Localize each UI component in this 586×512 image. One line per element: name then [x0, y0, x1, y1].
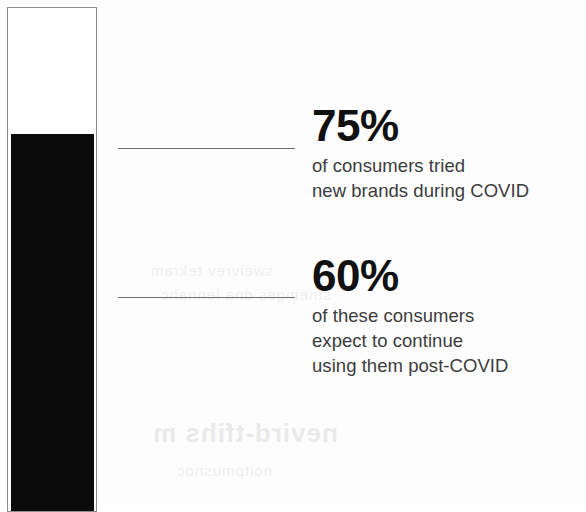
- stat-description-line: using them post-COVID: [312, 353, 586, 378]
- stat-callout-60: 60% of these consumers expect to continu…: [312, 254, 586, 378]
- scan-artifact-text: sweivrev tekram: [150, 262, 273, 279]
- stat-description-line: of these consumers: [312, 303, 586, 328]
- scan-artifact-text: stnemges dna lennahc: [160, 286, 331, 303]
- stat-callout-75: 75% of consumers tried new brands during…: [312, 104, 586, 203]
- bar-track: [8, 8, 96, 511]
- stat-value: 60%: [312, 254, 586, 298]
- stat-description: of these consumers expect to continue us…: [312, 303, 586, 378]
- scan-artifact-text: nevird-tfihs m: [152, 418, 338, 449]
- stat-value: 75%: [312, 104, 586, 148]
- vertical-bar-gauge: [7, 7, 97, 512]
- stat-description-line: of consumers tried: [312, 153, 586, 178]
- stat-description-line: new brands during COVID: [312, 178, 586, 203]
- leader-line-60: [118, 297, 295, 298]
- stat-description: of consumers tried new brands during COV…: [312, 153, 586, 203]
- leader-line-75: [118, 148, 295, 149]
- stat-description-line: expect to continue: [312, 328, 586, 353]
- scan-artifact-text: noitpmusnoc: [176, 462, 272, 479]
- bar-fill: [11, 134, 94, 511]
